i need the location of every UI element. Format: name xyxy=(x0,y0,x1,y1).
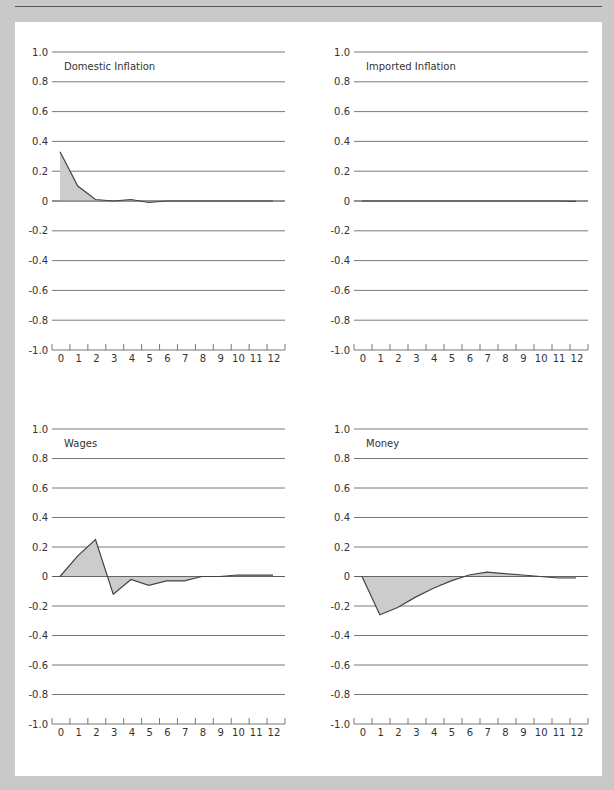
y-tick-label: 0 xyxy=(344,196,350,207)
x-tick-label: 12 xyxy=(268,727,281,738)
x-tick-label: 7 xyxy=(485,727,491,738)
y-tick-label: -0.6 xyxy=(330,660,350,671)
x-tick-label: 3 xyxy=(413,727,419,738)
x-tick-label: 12 xyxy=(268,353,281,364)
y-tick-label: -1.0 xyxy=(330,345,350,356)
area-fill xyxy=(60,152,273,203)
y-tick-label: 0.8 xyxy=(32,76,48,87)
x-tick-label: 2 xyxy=(395,727,401,738)
x-tick-label: 5 xyxy=(146,353,152,364)
chart-grid: 1.00.80.60.40.20-0.2-0.4-0.6-0.8-1.00123… xyxy=(0,0,614,790)
y-tick-label: -0.8 xyxy=(28,315,48,326)
x-tick-label: 0 xyxy=(58,727,64,738)
y-tick-label: -0.8 xyxy=(330,315,350,326)
y-tick-label: 0.2 xyxy=(334,166,350,177)
y-tick-label: -0.2 xyxy=(28,225,48,236)
x-tick-label: 2 xyxy=(395,353,401,364)
x-tick-label: 4 xyxy=(431,727,437,738)
x-tick-label: 9 xyxy=(217,727,223,738)
x-tick-label: 3 xyxy=(413,353,419,364)
x-tick-label: 12 xyxy=(571,727,584,738)
y-tick-label: 0.6 xyxy=(32,106,48,117)
x-tick-label: 10 xyxy=(232,353,245,364)
y-tick-label: 0.4 xyxy=(334,136,350,147)
y-tick-label: 0.8 xyxy=(334,453,350,464)
y-tick-label: -0.4 xyxy=(28,630,48,641)
y-tick-label: -1.0 xyxy=(330,719,350,730)
y-tick-label: 0.2 xyxy=(334,542,350,553)
x-tick-label: 8 xyxy=(200,353,206,364)
y-tick-label: 1.0 xyxy=(334,47,350,58)
x-tick-label: 4 xyxy=(129,353,135,364)
x-tick-label: 5 xyxy=(146,727,152,738)
chart-imported-inflation: 1.00.80.60.40.20-0.2-0.4-0.6-0.8-1.00123… xyxy=(330,47,588,365)
y-tick-label: 0.6 xyxy=(334,106,350,117)
y-tick-label: 0.4 xyxy=(32,136,48,147)
y-tick-label: 0.2 xyxy=(32,542,48,553)
y-tick-label: -0.4 xyxy=(28,255,48,266)
x-tick-label: 1 xyxy=(75,727,81,738)
chart-title: Imported Inflation xyxy=(366,61,456,72)
y-tick-label: 0.8 xyxy=(334,76,350,87)
x-tick-label: 8 xyxy=(502,727,508,738)
y-tick-label: -0.6 xyxy=(330,285,350,296)
y-tick-label: 0.4 xyxy=(32,512,48,523)
y-tick-label: -0.8 xyxy=(28,689,48,700)
x-tick-label: 9 xyxy=(520,727,526,738)
y-tick-label: -0.6 xyxy=(28,660,48,671)
y-tick-label: -0.2 xyxy=(28,601,48,612)
x-tick-label: 1 xyxy=(378,353,384,364)
x-tick-label: 5 xyxy=(449,353,455,364)
y-tick-label: 0.8 xyxy=(32,453,48,464)
y-tick-label: -0.2 xyxy=(330,225,350,236)
chart-wages: 1.00.80.60.40.20-0.2-0.4-0.6-0.8-1.00123… xyxy=(28,424,285,739)
chart-domestic-inflation: 1.00.80.60.40.20-0.2-0.4-0.6-0.8-1.00123… xyxy=(28,47,285,365)
x-tick-label: 11 xyxy=(250,353,263,364)
x-tick-label: 2 xyxy=(93,727,99,738)
x-tick-label: 0 xyxy=(58,353,64,364)
y-tick-label: -1.0 xyxy=(28,345,48,356)
x-tick-label: 4 xyxy=(129,727,135,738)
y-tick-label: -0.6 xyxy=(28,285,48,296)
x-tick-label: 6 xyxy=(467,727,473,738)
x-tick-label: 11 xyxy=(553,727,566,738)
y-tick-label: 0 xyxy=(42,196,48,207)
x-tick-label: 11 xyxy=(553,353,566,364)
x-tick-label: 4 xyxy=(431,353,437,364)
y-tick-label: 1.0 xyxy=(32,424,48,435)
x-tick-label: 7 xyxy=(182,353,188,364)
y-tick-label: 1.0 xyxy=(32,47,48,58)
x-tick-label: 7 xyxy=(182,727,188,738)
x-tick-label: 6 xyxy=(164,353,170,364)
x-tick-label: 1 xyxy=(378,727,384,738)
y-tick-label: 0.2 xyxy=(32,166,48,177)
y-tick-label: 0.4 xyxy=(334,512,350,523)
x-tick-label: 3 xyxy=(111,353,117,364)
y-tick-label: 1.0 xyxy=(334,424,350,435)
chart-title: Domestic Inflation xyxy=(64,61,155,72)
x-tick-label: 7 xyxy=(485,353,491,364)
y-tick-label: -0.4 xyxy=(330,630,350,641)
y-tick-label: -0.2 xyxy=(330,601,350,612)
y-tick-label: -1.0 xyxy=(28,719,48,730)
x-tick-label: 10 xyxy=(535,727,548,738)
x-tick-label: 0 xyxy=(360,353,366,364)
x-tick-label: 8 xyxy=(200,727,206,738)
x-tick-label: 10 xyxy=(232,727,245,738)
x-tick-label: 12 xyxy=(571,353,584,364)
x-tick-label: 6 xyxy=(467,353,473,364)
x-tick-label: 1 xyxy=(75,353,81,364)
x-tick-label: 3 xyxy=(111,727,117,738)
x-tick-label: 0 xyxy=(360,727,366,738)
series-line xyxy=(60,152,273,203)
y-tick-label: 0.6 xyxy=(334,483,350,494)
x-tick-label: 8 xyxy=(502,353,508,364)
y-tick-label: -0.8 xyxy=(330,689,350,700)
x-tick-label: 9 xyxy=(520,353,526,364)
x-tick-label: 9 xyxy=(217,353,223,364)
x-tick-label: 10 xyxy=(535,353,548,364)
chart-title: Wages xyxy=(64,438,97,449)
area-fill xyxy=(60,540,273,595)
x-tick-label: 6 xyxy=(164,727,170,738)
y-tick-label: -0.4 xyxy=(330,255,350,266)
